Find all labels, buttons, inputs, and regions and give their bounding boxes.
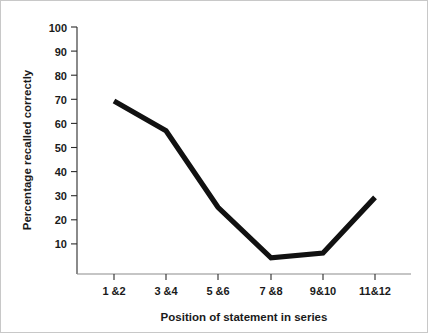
y-axis-ticks	[71, 27, 77, 244]
data-series-line	[114, 101, 375, 258]
x-axis-ticks	[114, 274, 375, 280]
x-axis-title: Position of statement in series	[161, 311, 328, 323]
y-tick-label-100: 100	[49, 22, 67, 34]
line-chart: 100 90 80 70 60 50 40 30 20 10 1 &2 3 &4…	[1, 1, 428, 333]
chart-figure: 100 90 80 70 60 50 40 30 20 10 1 &2 3 &4…	[0, 0, 428, 333]
y-tick-label-10: 10	[55, 238, 67, 250]
y-tick-label-40: 40	[55, 166, 67, 178]
y-tick-label-60: 60	[55, 118, 67, 130]
x-tick-label-5: 11&12	[359, 285, 391, 297]
y-axis-title: Percentage recalled correctly	[21, 69, 33, 230]
y-tick-label-30: 30	[55, 190, 67, 202]
y-tick-label-90: 90	[55, 46, 67, 58]
y-tick-label-50: 50	[55, 142, 67, 154]
y-tick-label-80: 80	[55, 70, 67, 82]
x-tick-label-2: 5 &6	[206, 285, 229, 297]
x-axis-tick-labels: 1 &2 3 &4 5 &6 7 &8 9&10 11&12	[102, 285, 391, 297]
x-tick-label-0: 1 &2	[102, 285, 125, 297]
y-axis-tick-labels: 100 90 80 70 60 50 40 30 20 10	[49, 22, 67, 251]
y-tick-label-20: 20	[55, 214, 67, 226]
x-tick-label-1: 3 &4	[154, 285, 178, 297]
x-tick-label-4: 9&10	[310, 285, 336, 297]
y-tick-label-70: 70	[55, 94, 67, 106]
x-tick-label-3: 7 &8	[259, 285, 282, 297]
